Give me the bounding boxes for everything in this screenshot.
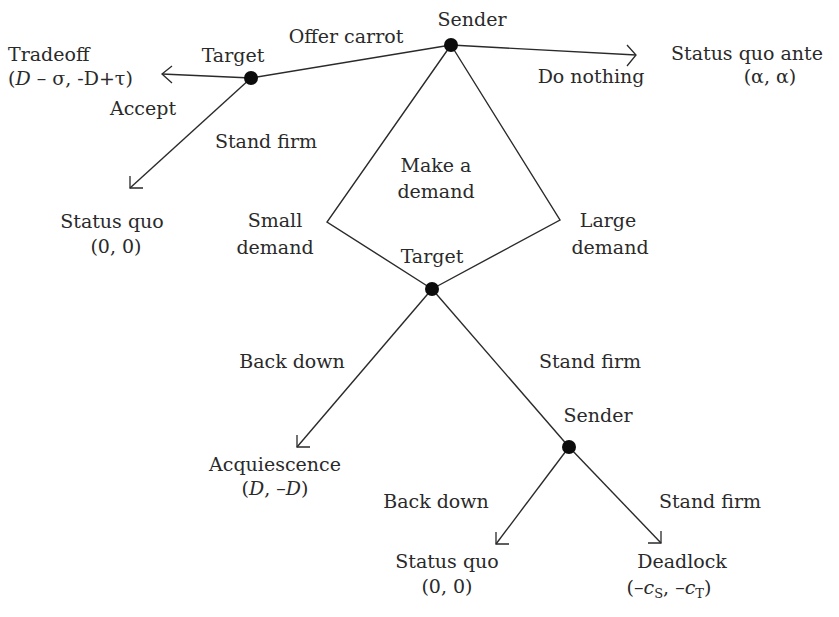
edge-offer-carrot <box>251 45 451 78</box>
action-sender-back-down: Back down <box>383 490 489 512</box>
edge-sender-stand-firm <box>569 447 661 543</box>
action-target-back-down: Back down <box>239 350 345 372</box>
edge-do-nothing <box>451 45 636 55</box>
player-label-carrot-target: Target <box>202 44 265 66</box>
outcome-acquiescence-payoff: (D, –D) <box>242 477 309 499</box>
edge-accept <box>162 74 251 78</box>
node-final-sender <box>562 440 576 454</box>
outcome-status-quo-final-payoff: (0, 0) <box>421 575 472 597</box>
outcome-status-quo-carrot-payoff: (0, 0) <box>90 235 141 257</box>
node-demand-target <box>425 282 439 296</box>
player-label-root: Sender <box>438 8 507 30</box>
outcome-acquiescence-name: Acquiescence <box>209 453 341 475</box>
action-accept: Accept <box>110 97 176 119</box>
action-sender-stand-firm: Stand firm <box>659 490 761 512</box>
player-label-demand-target: Target <box>401 245 464 267</box>
action-make-demand-line2: demand <box>397 180 474 202</box>
action-large-demand-line2: demand <box>571 236 648 258</box>
action-large-demand-line1: Large <box>580 209 636 231</box>
edge-sender-back-down <box>496 447 569 544</box>
outcome-tradeoff-name: Tradeoff <box>8 43 89 65</box>
outcome-deadlock-payoff: (–cS, –cT) <box>627 576 712 605</box>
outcome-deadlock-name: Deadlock <box>637 550 727 572</box>
action-carrot-stand-firm: Stand firm <box>215 130 317 152</box>
action-small-demand-line1: Small <box>248 209 303 231</box>
game-tree-edges <box>0 0 839 617</box>
outcome-status-quo-carrot-name: Status quo <box>60 210 163 232</box>
node-carrot-target <box>244 71 258 85</box>
action-offer-carrot: Offer carrot <box>289 25 404 47</box>
node-root-sender <box>444 38 458 52</box>
action-target-stand-firm: Stand firm <box>539 350 641 372</box>
outcome-tradeoff-payoff: (D – σ, -D+τ) <box>8 67 133 89</box>
outcome-status-quo-ante-payoff: (α, α) <box>744 65 797 87</box>
player-label-final-sender: Sender <box>564 404 633 426</box>
outcome-status-quo-final-name: Status quo <box>395 550 498 572</box>
action-do-nothing: Do nothing <box>538 65 645 87</box>
action-small-demand-line2: demand <box>236 236 313 258</box>
outcome-status-quo-ante-name: Status quo ante <box>671 42 823 64</box>
action-make-demand-line1: Make a <box>401 154 472 176</box>
